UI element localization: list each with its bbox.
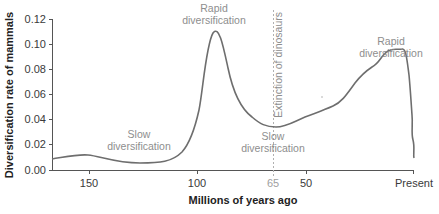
stray-dot bbox=[321, 96, 323, 98]
annotation-line2: diversification bbox=[359, 47, 423, 59]
annotation-slow-2: Slow diversification bbox=[241, 130, 305, 154]
annotation-line1: Slow bbox=[262, 130, 285, 142]
y-tick-label: 0.02 bbox=[25, 138, 46, 150]
x-tick-label-extinction: 65 bbox=[267, 177, 279, 189]
x-tick-label: 100 bbox=[188, 177, 206, 189]
y-tick-label: 0.12 bbox=[25, 13, 46, 25]
x-axis bbox=[52, 171, 414, 175]
annotation-line1: Rapid bbox=[200, 2, 228, 14]
x-tick-labels: 150 100 65 50 Present bbox=[80, 177, 433, 189]
y-axis-title: Diversification rate of mammals bbox=[3, 12, 15, 178]
x-tick-label: 50 bbox=[300, 177, 312, 189]
y-tick-label: 0.10 bbox=[25, 38, 46, 50]
annotation-line2: diversification bbox=[241, 142, 305, 154]
annotation-rapid-1: Rapid diversification bbox=[182, 2, 246, 26]
annotation-line1: Rapid bbox=[377, 35, 405, 47]
y-tick-labels: 0.12 0.10 0.08 0.06 0.04 0.02 0.00 bbox=[25, 13, 46, 176]
x-axis-title: Millions of years ago bbox=[189, 194, 298, 206]
y-tick-label: 0.04 bbox=[25, 113, 46, 125]
y-tick-label: 0.06 bbox=[25, 88, 46, 100]
x-tick-label: 150 bbox=[80, 177, 98, 189]
annotation-line2: diversification bbox=[182, 14, 246, 26]
y-axis bbox=[49, 19, 53, 171]
annotation-rapid-2: Rapid diversification bbox=[359, 35, 423, 59]
annotation-slow-1: Slow diversification bbox=[107, 128, 171, 152]
y-tick-label: 0.08 bbox=[25, 63, 46, 75]
y-tick-label: 0.00 bbox=[25, 164, 46, 176]
diversification-chart: Diversification rate of mammals 0.12 0.1… bbox=[0, 0, 439, 214]
annotation-line2: diversification bbox=[107, 140, 171, 152]
extinction-label: Extinction of dinosaurs bbox=[272, 12, 284, 118]
x-tick-label: Present bbox=[395, 177, 433, 189]
annotation-line1: Slow bbox=[128, 128, 151, 140]
